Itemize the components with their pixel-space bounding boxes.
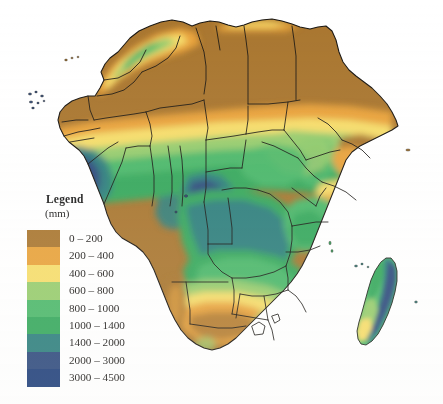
legend-row: 200 – 400 bbox=[27, 247, 187, 264]
legend-row: 0 – 200 bbox=[27, 230, 187, 247]
legend-label-1000-1400: 1000 – 1400 bbox=[69, 318, 125, 333]
legend-label-1400-2000: 1400 – 2000 bbox=[69, 335, 125, 350]
legend-row: 2000 – 3000 bbox=[27, 352, 187, 369]
legend-label-800-1000: 800 – 1000 bbox=[69, 301, 119, 316]
legend-row: 800 – 1000 bbox=[27, 300, 187, 317]
legend-swatch-600-800 bbox=[27, 282, 60, 299]
madagascar-rainfall-raster bbox=[350, 250, 410, 360]
legend-swatch-400-600 bbox=[27, 265, 60, 282]
map-legend: Legend (mm) 0 – 200 200 – 400 400 – 600 … bbox=[27, 192, 187, 220]
legend-units: (mm) bbox=[45, 206, 187, 220]
legend-label-400-600: 400 – 600 bbox=[69, 266, 114, 281]
legend-row: 1000 – 1400 bbox=[27, 317, 187, 334]
legend-label-200-400: 200 – 400 bbox=[69, 248, 114, 263]
legend-swatch-0-200 bbox=[27, 230, 60, 247]
legend-row: 1400 – 2000 bbox=[27, 334, 187, 351]
legend-title: Legend bbox=[46, 192, 187, 206]
legend-items: 0 – 200 200 – 400 400 – 600 600 – 800 80… bbox=[27, 230, 187, 387]
legend-row: 600 – 800 bbox=[27, 282, 187, 299]
legend-swatch-200-400 bbox=[27, 247, 60, 264]
legend-swatch-1400-2000 bbox=[27, 334, 60, 351]
legend-label-0-200: 0 – 200 bbox=[69, 231, 103, 246]
legend-row: 3000 – 4500 bbox=[27, 369, 187, 386]
legend-swatch-3000-4500 bbox=[27, 369, 60, 386]
legend-label-3000-4500: 3000 – 4500 bbox=[69, 370, 125, 385]
legend-label-2000-3000: 2000 – 3000 bbox=[69, 353, 125, 368]
legend-swatch-1000-1400 bbox=[27, 317, 60, 334]
legend-label-600-800: 600 – 800 bbox=[69, 283, 114, 298]
legend-swatch-800-1000 bbox=[27, 300, 60, 317]
legend-swatch-2000-3000 bbox=[27, 352, 60, 369]
rainfall-map-figure: Legend (mm) 0 – 200 200 – 400 400 – 600 … bbox=[0, 0, 443, 404]
legend-row: 400 – 600 bbox=[27, 265, 187, 282]
